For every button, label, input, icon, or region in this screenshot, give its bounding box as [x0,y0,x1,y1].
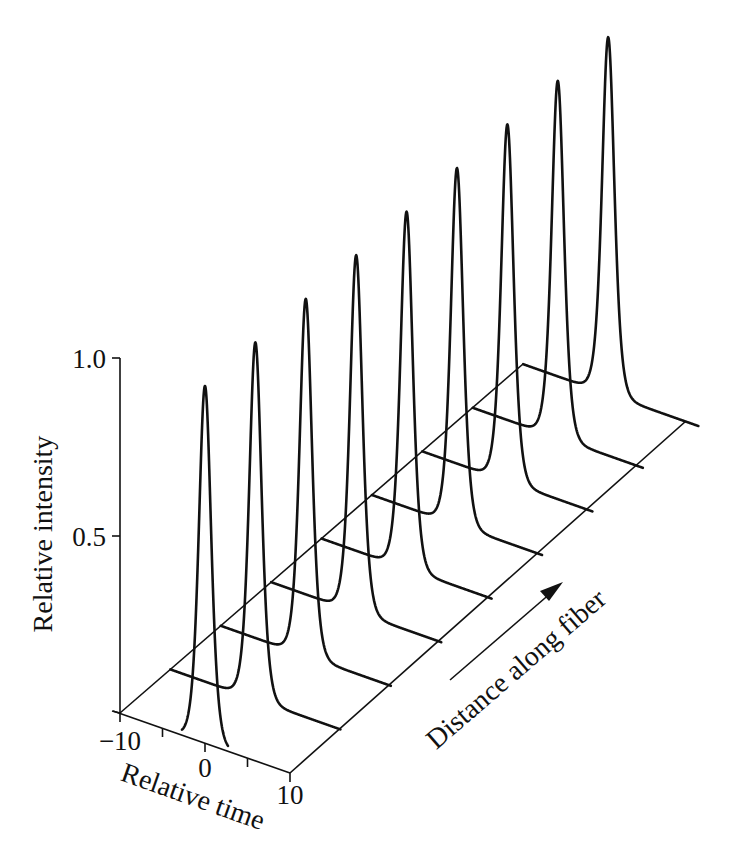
pulse-trace-z1 [182,386,228,746]
y-tick-label-05: 0.5 [72,522,106,552]
pulse-traces [170,37,698,746]
pulse-trace-z9 [523,37,698,426]
arrowhead-icon [540,582,563,601]
y-tick-label-1: 1.0 [72,344,106,374]
soliton-waterfall-plot: 1.0 0.5 Relative intensity −10 0 10 Rela… [0,0,732,860]
x-tick-label-0: 0 [198,753,212,783]
z-axis-title: Distance along fiber [420,582,612,755]
x-tick-label-minus10: −10 [99,726,141,756]
x-tick-label-10: 10 [277,780,304,810]
y-axis-title: Relative intensity [27,436,58,633]
x-axis-title: Relative time [117,756,269,835]
